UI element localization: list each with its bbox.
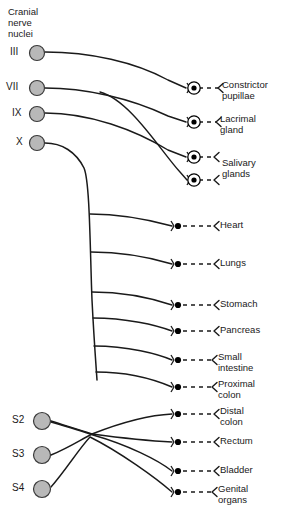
ganglion-genital-organs [175,489,181,495]
organ-label-rectum: Rectum [220,436,253,447]
fiber-lungs [91,252,172,264]
synapse-tick2-rectum [171,442,174,447]
synapse-tick2-distal-colon [171,414,174,419]
nucleus-S2 [34,413,51,430]
nucleus-X [30,136,45,151]
ganglion-distal-colon [175,411,181,417]
nucleus-label-S2: S2 [12,414,24,425]
ganglia-group [175,82,200,495]
terminal-fork-salivary-glands-lower [214,176,219,185]
fiber-salivary-glands-upper [45,113,186,157]
organ-label-lungs: Lungs [220,258,246,269]
synapse-tick2-lungs [171,264,174,269]
terminal-fork-pancreas [214,327,219,336]
synapse-tick2-small-intestine [171,360,174,365]
synapse-tick-distal-colon [171,409,174,414]
terminal-fork-rectum [214,438,219,447]
synapse-tick2-genital-organs [171,492,174,497]
organ-label-constrictor-pupillae: Constrictor pupillae [222,80,268,101]
fiber-stomach [92,292,172,305]
organ-label-bladder: Bladder [220,465,253,476]
ganglion-bladder [175,468,181,474]
synapse-tick2-heart [171,226,174,231]
ganglion-constrictor-pupillae [191,85,196,90]
fiber-small-intestine [94,346,172,360]
terminal-fork-salivary-glands-upper [214,153,219,162]
ganglion-salivary-glands-upper [191,154,196,159]
organ-label-proximal-colon: Proximal colon [218,379,255,400]
nucleus-label-S4: S4 [12,482,24,493]
parasympathetic-pathway-diagram [0,0,282,509]
terminal-fork-heart [214,222,219,231]
vagus-trunk [45,143,97,380]
terminal-fork-genital-organs [212,488,217,497]
fiber-heart [90,214,172,226]
synapse-tick2-proximal-colon [171,387,174,392]
terminal-fork-distal-colon [214,410,219,419]
nucleus-S4 [34,481,51,498]
organ-label-pancreas: Pancreas [220,325,260,336]
fiber-pancreas [93,318,172,331]
organ-label-distal-colon: Distal colon [220,406,244,427]
ganglion-small-intestine [175,357,181,363]
organ-label-salivary-glands-upper: Salivary glands [222,158,256,179]
nucleus-S3 [34,447,51,464]
organ-label-small-intestine: Small intestine [218,352,253,373]
ganglion-stomach [175,302,181,308]
fiber-rectum [51,421,172,442]
synapse-tick2-stomach [171,305,174,310]
ganglion-rectum [175,439,181,445]
synapse-tick-rectum [171,437,174,442]
terminal-fork-proximal-colon [212,383,217,392]
ganglion-lacrimal-gland [191,119,196,124]
terminal-fork-small-intestine [212,356,217,365]
nucleus-III [30,46,45,61]
nucleus-VII [30,81,45,96]
terminal-fork-bladder [214,467,219,476]
nucleus-label-III: III [10,46,18,57]
nucleus-label-S3: S3 [12,448,24,459]
organ-label-lacrimal-gland: Lacrimal gland [220,114,256,135]
fiber-proximal-colon [96,372,172,387]
synapse-tick2-pancreas [171,331,174,336]
vagus-trunk-group [45,143,97,380]
fiber-lacrimal-gland [45,88,186,122]
ganglion-proximal-colon [175,384,181,390]
fiber-genital-organs [51,437,172,492]
terminal-fork-lungs [214,260,219,269]
ganglion-pancreas [175,328,181,334]
nucleus-label-IX: IX [12,107,21,118]
page-title: Cranial nerve nuclei [8,6,38,39]
ganglion-heart [175,223,181,229]
nucleus-label-VII: VII [6,81,18,92]
fiber-constrictor-pupillae [45,52,186,88]
organ-label-stomach: Stomach [220,299,258,310]
preganglionic-fibers [45,52,187,492]
nucleus-IX [30,107,45,122]
nucleus-label-X: X [16,136,23,147]
organ-label-heart: Heart [220,220,243,231]
ganglion-salivary-glands-lower [191,177,196,182]
terminal-fork-stomach [214,301,219,310]
postganglionic-fibers [171,83,223,497]
synapse-tick2-bladder [171,471,174,476]
organ-label-genital-organs: Genital organs [218,484,248,505]
ganglion-lungs [175,261,181,267]
